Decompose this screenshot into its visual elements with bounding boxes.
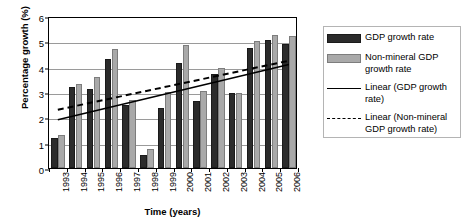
y-axis-tick-label: 1 [39, 139, 44, 150]
y-axis-tick-label: 0 [39, 165, 44, 176]
bar [247, 48, 253, 168]
legend-item-linear-nonmineral-gdp-growth-rate: Linear (Non-mineral GDP growth rate) [327, 112, 457, 135]
x-axis-tick-label: 2000 [185, 172, 195, 192]
x-axis-tick-label: 2005 [274, 172, 284, 192]
legend-label: GDP growth rate [365, 32, 434, 44]
chart-legend: GDP growth rate Non-mineral GDP growth r… [323, 26, 461, 138]
bar [87, 89, 93, 168]
bar [69, 87, 75, 168]
bar [105, 59, 111, 168]
bar [218, 68, 224, 168]
x-axis-tick-label: 1998 [150, 172, 160, 192]
x-axis-tick-label: 2006 [292, 172, 302, 192]
x-axis-tick-label: 1993 [61, 172, 71, 192]
bar [265, 40, 271, 168]
x-axis-tick-label: 1999 [168, 172, 178, 192]
x-axis-tick-label: 1995 [96, 172, 106, 192]
bar [211, 74, 217, 168]
bar [94, 77, 100, 168]
x-axis-tick-label: 1997 [132, 172, 142, 192]
y-axis-tick-label: 5 [39, 38, 44, 49]
plot-area: 0123456 [48, 17, 297, 169]
bar-series-group [49, 18, 296, 168]
bar [122, 105, 128, 168]
chart-container: Percentage growth (%) 0123456 1993199419… [0, 0, 465, 223]
legend-swatch-dark-icon [327, 33, 361, 44]
legend-item-linear-gdp-growth-rate: Linear (GDP growth rate) [327, 82, 457, 105]
legend-item-nonmineral-gdp-growth-rate: Non-mineral GDP growth rate [327, 52, 457, 75]
x-axis-tick-label: 1994 [79, 172, 89, 192]
legend-line-solid-icon [327, 83, 361, 94]
x-axis-tick-label: 2004 [257, 172, 267, 192]
bar [272, 35, 278, 168]
bar [112, 49, 118, 168]
bar [147, 149, 153, 168]
legend-label: Non-mineral GDP growth rate [365, 52, 457, 75]
y-axis-title: Percentage growth (%) [19, 0, 30, 128]
bar [165, 92, 171, 168]
bar [254, 41, 260, 168]
x-axis-labels: 1993199419951996199719981999200020012002… [48, 172, 297, 210]
legend-swatch-light-icon [327, 53, 361, 64]
bar [282, 44, 288, 168]
x-axis-title: Time (years) [48, 206, 297, 217]
bar [176, 63, 182, 168]
bar [158, 108, 164, 168]
x-axis-tick-label: 2003 [239, 172, 249, 192]
y-axis-tick-label: 4 [39, 63, 44, 74]
bar [183, 45, 189, 168]
legend-label: Linear (Non-mineral GDP growth rate) [365, 112, 457, 135]
bar [236, 93, 242, 168]
bar [51, 138, 57, 168]
bar [76, 84, 82, 168]
legend-item-gdp-growth-rate: GDP growth rate [327, 32, 457, 45]
bar [200, 91, 206, 168]
x-axis-tick-label: 2002 [221, 172, 231, 192]
x-axis-tick-label: 1996 [114, 172, 124, 192]
bar [229, 93, 235, 168]
bar [193, 101, 199, 168]
bar [129, 100, 135, 168]
bar [58, 135, 64, 168]
y-axis-tick-label: 6 [39, 13, 44, 24]
y-axis-tick-label: 3 [39, 89, 44, 100]
legend-line-dashed-icon [327, 113, 361, 124]
legend-label: Linear (GDP growth rate) [365, 82, 457, 105]
y-axis-tick-label: 2 [39, 114, 44, 125]
bar [140, 155, 146, 168]
x-axis-tick-label: 2001 [203, 172, 213, 192]
bar [289, 36, 295, 168]
